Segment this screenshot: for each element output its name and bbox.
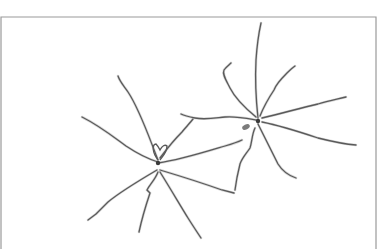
cell-drawing (0, 0, 391, 249)
background (0, 0, 391, 249)
cell-soma (156, 161, 160, 165)
cell-soma (256, 119, 260, 123)
micrograph-figure (0, 0, 391, 249)
